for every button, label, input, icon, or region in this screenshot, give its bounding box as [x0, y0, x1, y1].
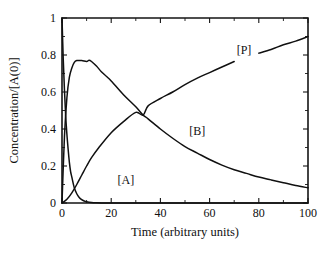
plot-frame: [62, 18, 308, 203]
y-axis-title: Concentration/[A(0)]: [7, 57, 21, 163]
series-labels: [A][B][P]: [115, 43, 255, 189]
series-label-p: [P]: [237, 43, 252, 57]
x-tick-label: 100: [299, 206, 317, 220]
y-tick-label: 0.4: [41, 122, 56, 136]
x-axis-title: Time (arbitrary units): [131, 225, 239, 239]
x-tick-label: 20: [105, 206, 117, 220]
y-tick-label: 1: [50, 11, 56, 25]
concentration-vs-time-chart: 02040608010000.20.40.60.81 [A][B][P] Tim…: [0, 0, 335, 253]
x-tick-label: 60: [204, 206, 216, 220]
x-tick-label: 0: [59, 206, 65, 220]
series-label-b: [B]: [189, 124, 205, 138]
y-tick-label: 0.8: [41, 48, 56, 62]
curve-p: [259, 37, 308, 54]
y-tick-label: 0.6: [41, 85, 56, 99]
axis-ticks: [62, 18, 308, 203]
x-tick-label: 40: [154, 206, 166, 220]
x-tick-label: 80: [253, 206, 265, 220]
chart-figure: 02040608010000.20.40.60.81 [A][B][P] Tim…: [0, 0, 335, 253]
data-curves: [62, 18, 308, 203]
axis-tick-labels: 02040608010000.20.40.60.81: [41, 11, 317, 220]
y-tick-label: 0.2: [41, 159, 56, 173]
curve-b: [62, 60, 308, 203]
curve-a: [62, 18, 308, 203]
curve-p: [62, 61, 234, 203]
plot-axes: [62, 18, 308, 203]
y-tick-label: 0: [50, 196, 56, 210]
series-label-a: [A]: [118, 173, 135, 187]
